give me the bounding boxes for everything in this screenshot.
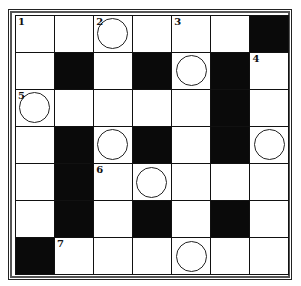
clue-number: 6 xyxy=(96,164,103,175)
grid-cell[interactable] xyxy=(211,164,249,200)
circle-icon xyxy=(176,55,207,86)
circle-icon xyxy=(97,129,128,160)
black-square xyxy=(211,127,249,163)
grid-cell[interactable] xyxy=(94,201,132,237)
grid-cell[interactable] xyxy=(172,90,210,126)
grid-cell[interactable] xyxy=(94,127,132,163)
grid-cell[interactable] xyxy=(250,164,288,200)
grid-cell[interactable] xyxy=(172,53,210,89)
black-square xyxy=(250,16,288,52)
grid-cell[interactable]: 6 xyxy=(94,164,132,200)
circle-icon xyxy=(136,167,167,198)
crossword-grid: 1234567 xyxy=(15,15,289,275)
black-square xyxy=(211,53,249,89)
black-square xyxy=(133,127,171,163)
clue-number: 4 xyxy=(252,53,259,64)
circle-icon xyxy=(97,18,128,49)
grid-cell[interactable]: 3 xyxy=(172,16,210,52)
grid-cell[interactable] xyxy=(250,127,288,163)
grid-cell[interactable]: 1 xyxy=(16,16,54,52)
grid-cell[interactable] xyxy=(172,127,210,163)
grid-cell[interactable] xyxy=(172,201,210,237)
black-square xyxy=(211,90,249,126)
grid-cell[interactable]: 4 xyxy=(250,53,288,89)
grid-cell[interactable] xyxy=(211,16,249,52)
black-square xyxy=(133,201,171,237)
black-square xyxy=(55,127,93,163)
grid-cell[interactable] xyxy=(55,90,93,126)
grid-cell[interactable] xyxy=(133,16,171,52)
black-square xyxy=(55,53,93,89)
circle-icon xyxy=(19,92,50,123)
grid-cell[interactable]: 7 xyxy=(55,238,93,274)
grid-cell[interactable] xyxy=(133,90,171,126)
clue-number: 1 xyxy=(18,16,25,27)
grid-cell[interactable] xyxy=(16,201,54,237)
grid-cell[interactable] xyxy=(133,238,171,274)
grid-cell[interactable] xyxy=(55,16,93,52)
grid-cell[interactable] xyxy=(250,90,288,126)
grid-cell[interactable] xyxy=(94,53,132,89)
grid-cell[interactable] xyxy=(211,238,249,274)
circle-icon xyxy=(176,241,207,272)
grid-cell[interactable] xyxy=(172,164,210,200)
black-square xyxy=(133,53,171,89)
grid-cell[interactable] xyxy=(16,53,54,89)
grid-cell[interactable] xyxy=(250,238,288,274)
grid-cell[interactable] xyxy=(16,127,54,163)
black-square xyxy=(55,164,93,200)
grid-cell[interactable] xyxy=(16,164,54,200)
grid-cell[interactable]: 2 xyxy=(94,16,132,52)
grid-cell[interactable] xyxy=(250,201,288,237)
grid-cell[interactable] xyxy=(94,90,132,126)
grid-cell[interactable] xyxy=(172,238,210,274)
circle-icon xyxy=(254,129,285,160)
black-square xyxy=(55,201,93,237)
black-square xyxy=(16,238,54,274)
grid-cell[interactable] xyxy=(94,238,132,274)
clue-number: 7 xyxy=(57,238,64,249)
grid-cell[interactable] xyxy=(133,164,171,200)
grid-cell[interactable]: 5 xyxy=(16,90,54,126)
clue-number: 3 xyxy=(174,16,181,27)
black-square xyxy=(211,201,249,237)
